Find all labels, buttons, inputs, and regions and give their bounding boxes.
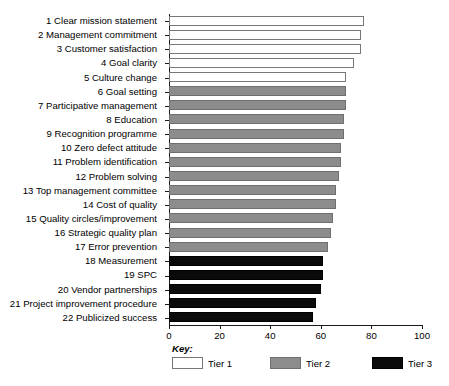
bar-row — [169, 14, 422, 28]
category-label: 10 Zero defect attitude — [61, 141, 157, 155]
y-tick — [165, 233, 169, 234]
x-tick-label: 20 — [214, 330, 225, 341]
bar — [169, 185, 336, 195]
bar-row — [169, 283, 422, 297]
bar — [169, 270, 323, 280]
y-tick — [165, 276, 169, 277]
bar — [169, 256, 323, 266]
x-tick — [169, 325, 170, 329]
x-tick-label: 40 — [265, 330, 276, 341]
bar-row — [169, 155, 422, 169]
bar-row — [169, 311, 422, 325]
x-tick — [220, 325, 221, 329]
y-tick — [165, 261, 169, 262]
category-label: 3 Customer satisfaction — [57, 42, 157, 56]
bar-row — [169, 254, 422, 268]
plot-area — [169, 14, 422, 325]
bar-row — [169, 28, 422, 42]
y-tick — [165, 106, 169, 107]
category-label: 1 Clear mission statement — [46, 14, 157, 28]
category-label: 19 SPC — [124, 268, 157, 282]
bar-row — [169, 268, 422, 282]
bar-row — [169, 141, 422, 155]
x-tick — [371, 325, 372, 329]
y-tick — [165, 304, 169, 305]
category-label: 22 Publicized success — [63, 311, 157, 325]
y-tick — [165, 120, 169, 121]
bar-row — [169, 99, 422, 113]
category-label: 16 Strategic quality plan — [55, 226, 157, 240]
y-tick — [165, 21, 169, 22]
category-label: 5 Culture change — [84, 71, 157, 85]
x-tick — [422, 325, 423, 329]
bar-row — [169, 127, 422, 141]
y-tick — [165, 134, 169, 135]
category-label: 2 Management commitment — [38, 28, 157, 42]
bar-row — [169, 113, 422, 127]
y-tick — [165, 78, 169, 79]
bar-row — [169, 56, 422, 70]
bar — [169, 16, 364, 26]
bar — [169, 72, 346, 82]
y-tick — [165, 205, 169, 206]
x-axis-line — [169, 325, 423, 326]
legend-label: Tier 3 — [408, 358, 432, 369]
tier-2-swatch — [270, 357, 301, 369]
tier-1-swatch — [172, 357, 203, 369]
y-tick — [165, 49, 169, 50]
category-label: 15 Quality circles/improvement — [26, 212, 157, 226]
category-label: 13 Top management committee — [23, 184, 157, 198]
legend-label: Tier 2 — [306, 358, 330, 369]
bar-row — [169, 198, 422, 212]
bar — [169, 58, 354, 68]
x-tick-label: 60 — [315, 330, 326, 341]
bar-row — [169, 85, 422, 99]
legend-item: Tier 2 — [270, 357, 330, 369]
bar — [169, 86, 346, 96]
category-label: 9 Recognition programme — [47, 127, 157, 141]
y-tick — [165, 92, 169, 93]
y-tick — [165, 191, 169, 192]
bar — [169, 114, 344, 124]
category-label: 8 Education — [106, 113, 157, 127]
y-tick — [165, 35, 169, 36]
bar — [169, 44, 361, 54]
bar — [169, 298, 316, 308]
category-label: 6 Goal setting — [98, 85, 157, 99]
category-label: 4 Goal clarity — [101, 56, 157, 70]
y-tick — [165, 219, 169, 220]
x-tick — [270, 325, 271, 329]
category-label: 11 Problem identification — [53, 155, 157, 169]
bar — [169, 157, 341, 167]
tier-3-swatch — [372, 357, 403, 369]
category-label: 21 Project improvement procedure — [10, 297, 157, 311]
y-tick — [165, 162, 169, 163]
legend-title: Key: — [172, 343, 193, 354]
category-label: 20 Vendor partnerships — [58, 283, 157, 297]
bar-row — [169, 226, 422, 240]
legend-item: Tier 3 — [372, 357, 432, 369]
bar — [169, 143, 341, 153]
bar-row — [169, 184, 422, 198]
bar — [169, 30, 361, 40]
y-tick — [165, 177, 169, 178]
x-tick-label: 0 — [166, 330, 171, 341]
bar-row — [169, 71, 422, 85]
bar-row — [169, 170, 422, 184]
bar — [169, 284, 321, 294]
category-label: 7 Participative management — [38, 99, 157, 113]
y-tick — [165, 63, 169, 64]
bar — [169, 312, 313, 322]
category-label: 14 Cost of quality — [83, 198, 157, 212]
x-tick — [321, 325, 322, 329]
y-tick — [165, 247, 169, 248]
y-tick — [165, 290, 169, 291]
y-tick — [165, 148, 169, 149]
y-tick — [165, 318, 169, 319]
bar-row — [169, 212, 422, 226]
x-tick-label: 100 — [414, 330, 430, 341]
bar-row — [169, 297, 422, 311]
bar — [169, 129, 344, 139]
bar — [169, 100, 346, 110]
x-tick-label: 80 — [366, 330, 377, 341]
